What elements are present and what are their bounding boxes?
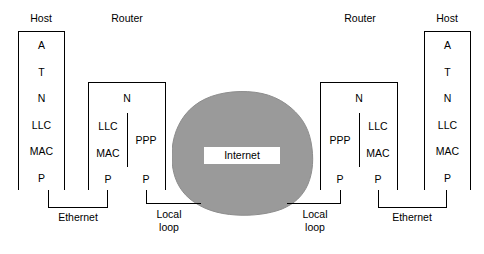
right-router-layer-physical-lan: P: [359, 167, 397, 191]
right-router-layer-mac: MAC: [359, 140, 397, 167]
left-local-loop-label: Local loop: [143, 208, 195, 233]
left-host-layer-mac: MAC: [19, 138, 64, 165]
right-router-stack: N PPP LLC MAC P P: [320, 82, 398, 190]
left-router-layer-physical-wan: P: [127, 167, 165, 191]
right-local-loop-label-line1: Local: [302, 208, 327, 220]
right-router-layer-ppp: PPP: [321, 113, 359, 167]
left-host-layer-application: A: [19, 32, 64, 59]
column-title-left-router: Router: [94, 12, 160, 24]
right-local-loop-drop: [340, 190, 341, 204]
column-title-right-router: Router: [327, 12, 393, 24]
right-router-layer-llc: LLC: [359, 113, 397, 140]
left-router-layer-physical-lan: P: [89, 167, 127, 191]
right-router-layer-network: N: [321, 83, 397, 113]
left-router-stack: N LLC MAC PPP P P: [88, 82, 166, 190]
right-host-layer-network: N: [425, 85, 470, 112]
column-title-right-host: Host: [414, 12, 480, 24]
left-local-loop-run: [146, 203, 201, 204]
internet-cloud: Internet: [172, 90, 316, 216]
left-host-layer-transport: T: [19, 59, 64, 86]
left-ethernet-drop-host: [48, 190, 49, 208]
left-ethernet-drop-router: [107, 190, 108, 208]
left-local-loop-label-line1: Local: [156, 208, 181, 220]
right-local-loop-label-line2: loop: [305, 221, 325, 233]
network-protocol-stack-diagram: Host Router Router Host A T N LLC MAC P …: [0, 0, 484, 254]
left-host-layer-llc: LLC: [19, 112, 64, 139]
right-host-layer-physical: P: [425, 165, 470, 192]
left-ethernet-bus: [48, 207, 108, 208]
right-local-loop-run: [287, 203, 341, 204]
left-host-stack: A T N LLC MAC P: [18, 31, 65, 190]
left-router-layer-network: N: [89, 83, 165, 113]
right-ethernet-drop-host: [446, 190, 447, 208]
left-router-layer-mac: MAC: [89, 140, 127, 167]
internet-cloud-label: Internet: [204, 147, 280, 164]
right-host-layer-application: A: [425, 32, 470, 59]
right-host-layer-transport: T: [425, 59, 470, 86]
right-host-stack: A T N LLC MAC P: [424, 31, 471, 190]
right-host-layer-llc: LLC: [425, 112, 470, 139]
right-local-loop-label: Local loop: [289, 208, 341, 233]
left-ethernet-label: Ethernet: [43, 211, 113, 224]
right-ethernet-label: Ethernet: [377, 211, 447, 224]
left-local-loop-drop: [146, 190, 147, 204]
left-host-layer-network: N: [19, 85, 64, 112]
left-host-layer-physical: P: [19, 165, 64, 192]
column-title-left-host: Host: [8, 12, 74, 24]
right-host-layer-mac: MAC: [425, 138, 470, 165]
right-ethernet-bus: [378, 207, 447, 208]
right-router-layer-physical-wan: P: [321, 167, 359, 191]
left-router-layer-ppp: PPP: [127, 113, 165, 167]
right-ethernet-drop-router: [378, 190, 379, 208]
left-router-layer-llc: LLC: [89, 113, 127, 140]
left-local-loop-label-line2: loop: [159, 221, 179, 233]
